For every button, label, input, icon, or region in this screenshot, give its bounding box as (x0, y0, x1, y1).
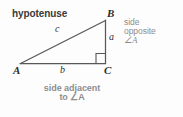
side-opposite-annotation: side opposite ∠A (124, 18, 156, 45)
hypotenuse-label: hypotenuse (12, 9, 67, 20)
vertex-label-b: B (107, 8, 114, 20)
side-adjacent-annotation: side adjacent to ∠A (27, 84, 117, 103)
side-letter-c: c (55, 24, 59, 35)
side-letter-b: b (60, 65, 65, 76)
figure-canvas: hypotenuse c a b A B C side opposite ∠A … (0, 0, 183, 117)
vertex-label-c: C (104, 65, 111, 77)
side-adjacent-line-2: to ∠A (27, 93, 117, 102)
vertex-label-a: A (13, 65, 20, 77)
hypotenuse-line (21, 21, 106, 64)
side-opposite-angle-a: ∠A (124, 36, 156, 45)
right-angle-marker-icon (96, 54, 106, 64)
side-letter-a: a (109, 32, 114, 43)
